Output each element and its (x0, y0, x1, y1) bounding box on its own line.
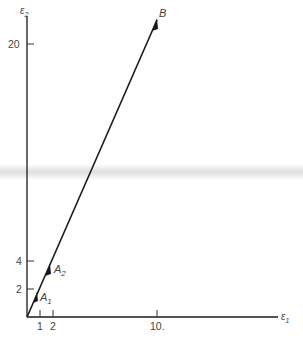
y-tick-label-4: 4 (16, 255, 22, 267)
y-axis-label: ε2 (20, 5, 28, 18)
x-tick-label-2: 2 (50, 320, 56, 332)
arrow-head-B-icon (152, 18, 158, 31)
arrow-head-A2-icon (45, 264, 51, 276)
point-label-A1: A1 (39, 291, 52, 306)
y-tick-label-20: 20 (8, 38, 20, 50)
x-axis-label: ε1 (281, 311, 289, 324)
point-label-A2: A2 (53, 263, 66, 278)
x-tick-label-1: 1 (37, 320, 43, 332)
strain-diagram: 20 4 2 1 2 10. ε2 ε1 B A2 A1 (0, 0, 303, 341)
y-tick-label-2: 2 (16, 283, 22, 295)
x-tick-label-10: 10. (150, 320, 165, 332)
point-label-B: B (159, 7, 166, 19)
